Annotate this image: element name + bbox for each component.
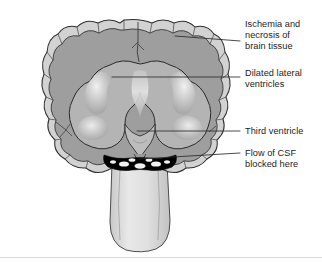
label-ischemia-necrosis: Ischemia and necrosis of brain tissue: [245, 19, 300, 53]
label-dilated-lateral-ventricles: Dilated lateral ventricles: [245, 68, 302, 90]
footer-divider: [0, 257, 322, 258]
label-flow-of-csf-blocked-here: Flow of CSF blocked here: [245, 148, 298, 170]
brainstem: [110, 163, 170, 252]
label-third-ventricle: Third ventricle: [245, 126, 303, 137]
